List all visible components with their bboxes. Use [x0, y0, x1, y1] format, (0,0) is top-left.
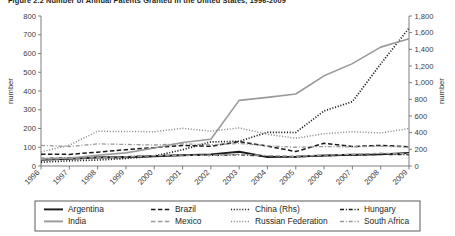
- legend-label-russian-federation: Russian Federation: [255, 216, 328, 226]
- x-axis: 1996199719981999200020012002200320042005…: [23, 166, 410, 187]
- x-tick-label: 1999: [108, 168, 127, 187]
- legend-label-south-africa: South Africa: [364, 216, 410, 226]
- x-tick-label: 2005: [278, 168, 297, 187]
- series-line-india: [41, 39, 409, 159]
- y-tick-label-right: 800: [415, 95, 428, 104]
- x-tick-label: 2002: [193, 168, 212, 187]
- x-tick-label: 1997: [51, 168, 70, 187]
- y-tick-label-right: 200: [415, 145, 428, 154]
- legend-label-china-rhs: China (Rhs): [255, 204, 300, 214]
- x-tick-label: 1996: [23, 168, 42, 187]
- chart-container: 0100200300400500600700800number020040060…: [0, 0, 455, 236]
- legend-label-hungary: Hungary: [364, 204, 396, 214]
- x-tick-label: 2008: [362, 168, 381, 187]
- series-line-south-africa: [41, 144, 409, 148]
- x-tick-label: 2003: [221, 168, 240, 187]
- series-layer: [41, 28, 409, 162]
- x-tick-label: 2004: [249, 168, 268, 187]
- y-axis-title-left: number: [6, 78, 15, 104]
- x-tick-label: 1998: [79, 168, 98, 187]
- y-axis-title-right: number: [437, 78, 446, 104]
- x-tick-label: 2000: [136, 168, 155, 187]
- y-tick-label-right: 0: [415, 162, 419, 171]
- y-tick-label-left: 100: [23, 143, 36, 152]
- x-tick-label: 2006: [306, 168, 325, 187]
- y-tick-label-left: 300: [23, 105, 36, 114]
- y-tick-label-left: 800: [23, 12, 36, 21]
- y-tick-label-right: 400: [415, 128, 428, 137]
- y-axis-right: 02004006008001,0001,2001,4001,6001,800nu…: [409, 12, 446, 171]
- y-tick-label-left: 600: [23, 49, 36, 58]
- y-tick-label-left: 200: [23, 124, 36, 133]
- series-line-china-rhs: [41, 28, 409, 162]
- legend-label-argentina: Argentina: [68, 204, 104, 214]
- x-tick-label: 2001: [164, 168, 183, 187]
- legend-label-india: India: [68, 216, 87, 226]
- x-tick-label: 2009: [391, 168, 410, 187]
- y-tick-label-right: 1,400: [415, 45, 434, 54]
- legend-label-mexico: Mexico: [175, 216, 202, 226]
- y-tick-label-left: 700: [23, 30, 36, 39]
- y-tick-label-right: 600: [415, 112, 428, 121]
- y-tick-label-right: 1,600: [415, 28, 434, 37]
- legend-label-brazil: Brazil: [175, 204, 196, 214]
- y-tick-label-right: 1,200: [415, 62, 434, 71]
- legend: ArgentinaBrazilChina (Rhs)HungaryIndiaMe…: [35, 201, 420, 231]
- y-axis-left: 0100200300400500600700800number: [6, 12, 41, 171]
- y-tick-label-left: 500: [23, 68, 36, 77]
- y-tick-label-right: 1,000: [415, 78, 434, 87]
- x-tick-label: 2007: [334, 168, 353, 187]
- y-tick-label-left: 400: [23, 87, 36, 96]
- series-line-russian-federation: [41, 128, 409, 152]
- y-tick-label-right: 1,800: [415, 12, 434, 21]
- line-chart: 0100200300400500600700800number020040060…: [0, 0, 455, 236]
